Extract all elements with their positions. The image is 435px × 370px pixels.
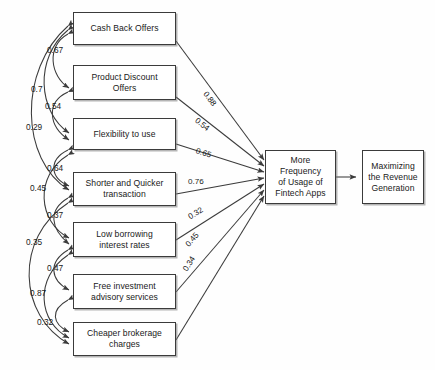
corr-label-029: 0.29 (26, 122, 42, 132)
corr-label-054: 0.54 (45, 101, 61, 111)
node-cash-back-offers[interactable]: Cash Back Offers (73, 12, 176, 45)
corr-label-047: 0.47 (47, 263, 63, 273)
node-maximizing-the-revenue-generation[interactable]: Maximizing the Revenue Generation (362, 150, 424, 204)
corr-label-064: 0.64 (47, 163, 63, 173)
node-product-discount-offers[interactable]: Product Discount Offers (73, 65, 176, 100)
corr-label-037: 0.37 (47, 210, 63, 220)
corr-label-045: 0.45 (30, 183, 46, 193)
corr-arc-032 (55, 300, 69, 332)
node-low-borrowing-interest-rates[interactable]: Low borrowing interest rates (73, 222, 176, 257)
node-free-investment-advisory-services[interactable]: Free investment advisory services (73, 274, 176, 309)
node-label: Flexibility to use (93, 129, 155, 140)
node-cheaper-brokerage-charges[interactable]: Cheaper brokerage charges (73, 322, 176, 356)
corr-label-035: 0.35 (26, 237, 42, 247)
node-flexibility-to-use[interactable]: Flexibility to use (73, 118, 176, 150)
node-label: Product Discount Offers (91, 72, 157, 94)
path-arrow-product-discount-offers (176, 97, 264, 166)
node-label: More Frequency of Usage of Fintech Apps (269, 155, 332, 199)
corr-arc-054 (52, 92, 69, 140)
path-diagram-canvas: Cash Back Offers Product Discount Offers… (0, 0, 435, 370)
corr-label-087: 0.87 (30, 288, 46, 298)
path-arrow-flexibility-to-use (176, 144, 264, 172)
node-label: Cheaper brokerage charges (87, 328, 162, 350)
node-label: Cash Back Offers (91, 23, 159, 34)
path-arrow-cash-back-offers (176, 41, 264, 160)
corr-label-067: 0.67 (47, 45, 63, 55)
node-label: Free investment advisory services (91, 281, 158, 303)
node-more-frequency-of-usage-of-fintech-apps[interactable]: More Frequency of Usage of Fintech Apps (265, 150, 336, 204)
path-label-shorter-and-quicker-transaction: 0.76 (188, 177, 204, 186)
node-label: Maximizing the Revenue Generation (368, 161, 417, 194)
node-shorter-and-quicker-transaction[interactable]: Shorter and Quicker transaction (73, 172, 176, 206)
corr-label-032: 0.32 (37, 317, 53, 327)
node-label: Shorter and Quicker transaction (86, 178, 164, 200)
corr-arc-067 (53, 34, 69, 88)
node-label: Low borrowing interest rates (96, 229, 153, 251)
corr-label-07: 0.7 (31, 84, 43, 94)
